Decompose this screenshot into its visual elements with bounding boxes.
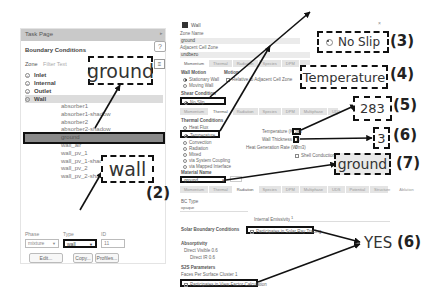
view-factor-checkbox[interactable]: ✓Participates in View Factor Calculation: [180, 279, 258, 287]
boundary-conditions-title: Boundary Conditions: [25, 47, 86, 53]
filter-icon[interactable]: ≡: [154, 59, 165, 69]
radio-icon: [326, 39, 333, 46]
chevron-down-icon: ▼: [89, 241, 93, 248]
temperature-input[interactable]: 283: [292, 128, 301, 135]
tab-uds[interactable]: UDS: [328, 108, 345, 115]
zone-filter-row: Zone Filter Text: [25, 61, 67, 67]
no-slip-radio[interactable]: No Slip: [180, 97, 226, 105]
tab-momentum[interactable]: Momentum: [180, 108, 209, 115]
shell-conduction-checkbox[interactable]: Shell Conduction: [295, 153, 335, 158]
callout-wall-type: wall: [101, 155, 154, 183]
heat-generation-input[interactable]: 0: [295, 145, 298, 150]
moving-wall-radio[interactable]: Moving Wall: [183, 83, 213, 88]
convection-radio[interactable]: Convection: [183, 140, 212, 145]
tab-thermal[interactable]: Thermal: [209, 186, 233, 193]
tab-potential[interactable]: Potential: [346, 186, 371, 193]
tab-multiphase[interactable]: Multiphase: [300, 108, 328, 115]
callout-temperature-value: 283: [353, 96, 392, 121]
mixed-radio[interactable]: Mixed: [183, 152, 201, 157]
profiles-button[interactable]: Profiles...: [95, 253, 119, 263]
mid-tab-bar: Momentum Thermal Radiation Species DPM M…: [180, 108, 338, 115]
phase-label: Phase: [25, 231, 39, 237]
tree-item[interactable]: absorber1-shadow: [25, 111, 163, 119]
close-icon[interactable]: ×: [378, 20, 381, 26]
tree-category-outlet[interactable]: +Outlet: [25, 87, 163, 95]
radio-icon: [183, 141, 187, 145]
expand-icon[interactable]: +: [25, 73, 30, 78]
tab-species[interactable]: Species: [259, 108, 282, 115]
internal-emissivity-input[interactable]: 1: [290, 216, 390, 222]
edit-button[interactable]: Edit...: [29, 253, 63, 263]
radiation-radio[interactable]: Radiation: [183, 146, 208, 151]
adjacent-cell-zone-field: [180, 52, 310, 58]
tab-dpm[interactable]: DPM: [282, 108, 300, 115]
faces-per-cluster-input[interactable]: 1: [235, 272, 238, 277]
type-dropdown[interactable]: wall▼: [63, 239, 97, 248]
tab-uds[interactable]: UDS: [328, 186, 345, 193]
callout-temperature: Temperature: [300, 65, 388, 89]
direct-visible-input[interactable]: 0.6: [211, 248, 217, 253]
tree-item[interactable]: absorber2-shadow: [25, 126, 163, 134]
tab-thermal[interactable]: Thermal: [209, 108, 233, 115]
relative-checkbox[interactable]: ✓Relative to Adjacent Cell Zone: [226, 77, 292, 82]
tab-ablation[interactable]: Ablation: [395, 186, 418, 193]
temperature-radio[interactable]: Temperature: [180, 130, 220, 138]
tab-momentum[interactable]: Momentum: [180, 186, 209, 193]
expand-icon[interactable]: +: [25, 81, 30, 86]
callout-thickness-value: 3: [373, 127, 390, 149]
bc-type-dropdown[interactable]: opaque: [180, 206, 248, 212]
material-dropdown[interactable]: ground▾: [180, 176, 226, 183]
tab-momentum[interactable]: Momentum: [180, 60, 209, 67]
copy-button[interactable]: Copy...: [73, 253, 93, 263]
tree-item-selected[interactable]: ground: [25, 134, 163, 142]
tree-item[interactable]: absorber2: [25, 119, 163, 127]
help-icon[interactable]: ?: [154, 41, 166, 52]
callout-number-2: (2): [146, 184, 170, 202]
callout-number-7: (7): [396, 154, 420, 172]
callout-no-slip: No Slip: [317, 31, 389, 53]
tab-dpm[interactable]: DPM: [282, 60, 300, 67]
wall-thickness-input[interactable]: 3: [293, 136, 299, 143]
task-page-header: Task Page ▸: [21, 29, 165, 41]
system-coupling-radio[interactable]: via System Coupling: [183, 158, 230, 163]
tab-radiation[interactable]: Radiation: [233, 108, 259, 115]
temperature-label: Temperature (K): [262, 129, 295, 134]
tab-radiation[interactable]: Radiation: [233, 186, 259, 193]
callout-number-5: (5): [393, 96, 417, 114]
stationary-wall-radio[interactable]: Stationary Wall: [183, 77, 219, 82]
zone-filter-input[interactable]: Filter Text: [43, 61, 67, 67]
bottom-tab-bar: Momentum Thermal Radiation Species DPM M…: [180, 186, 388, 193]
faces-per-cluster-label: Faces Per Surface Cluster 1: [181, 272, 238, 277]
tree-item[interactable]: wall_air: [25, 142, 163, 150]
shear-condition-label: Shear Condition: [181, 91, 216, 96]
expand-icon[interactable]: +: [25, 89, 30, 94]
tree-category-wall[interactable]: −Wall: [25, 95, 163, 103]
thermal-conditions-label: Thermal Conditions: [181, 118, 223, 123]
material-edit-button[interactable]: [230, 176, 242, 182]
s2s-parameters-label: S2S Parameters: [181, 265, 215, 270]
tree-item[interactable]: absorber1: [25, 103, 163, 111]
check-icon: ✓: [250, 230, 254, 234]
tab-thermal[interactable]: Thermal: [209, 60, 233, 67]
zone-label: Zone: [25, 61, 38, 67]
direct-ir-input[interactable]: 0.6: [209, 255, 215, 260]
tab-multiphase[interactable]: Multiphase: [300, 186, 328, 193]
collapse-icon[interactable]: −: [25, 97, 30, 102]
zone-name-field[interactable]: [180, 38, 300, 44]
tab-structure[interactable]: Structure: [370, 186, 395, 193]
mapped-interface-radio[interactable]: via Mapped Interface: [183, 164, 231, 169]
wall-motion-label: Wall Motion: [181, 70, 206, 75]
tab-species[interactable]: Species: [259, 186, 282, 193]
radio-icon: [184, 134, 188, 138]
phase-dropdown[interactable]: mixture▼: [25, 239, 59, 248]
radio-icon: [183, 153, 187, 157]
id-field[interactable]: 11: [101, 239, 125, 248]
pin-icon[interactable]: ▸: [160, 30, 163, 36]
tab-radiation[interactable]: Radiation: [233, 60, 259, 67]
tab-dpm[interactable]: DPM: [282, 186, 300, 193]
bc-type-label: BC Type: [181, 199, 198, 204]
solar-ray-tracing-checkbox[interactable]: ✓Participates in Solar Ray Tracing: [246, 226, 314, 234]
tab-species[interactable]: Species: [259, 60, 282, 67]
callout-number-6: (6): [393, 126, 417, 144]
callout-ground-zone: ground: [88, 56, 153, 85]
